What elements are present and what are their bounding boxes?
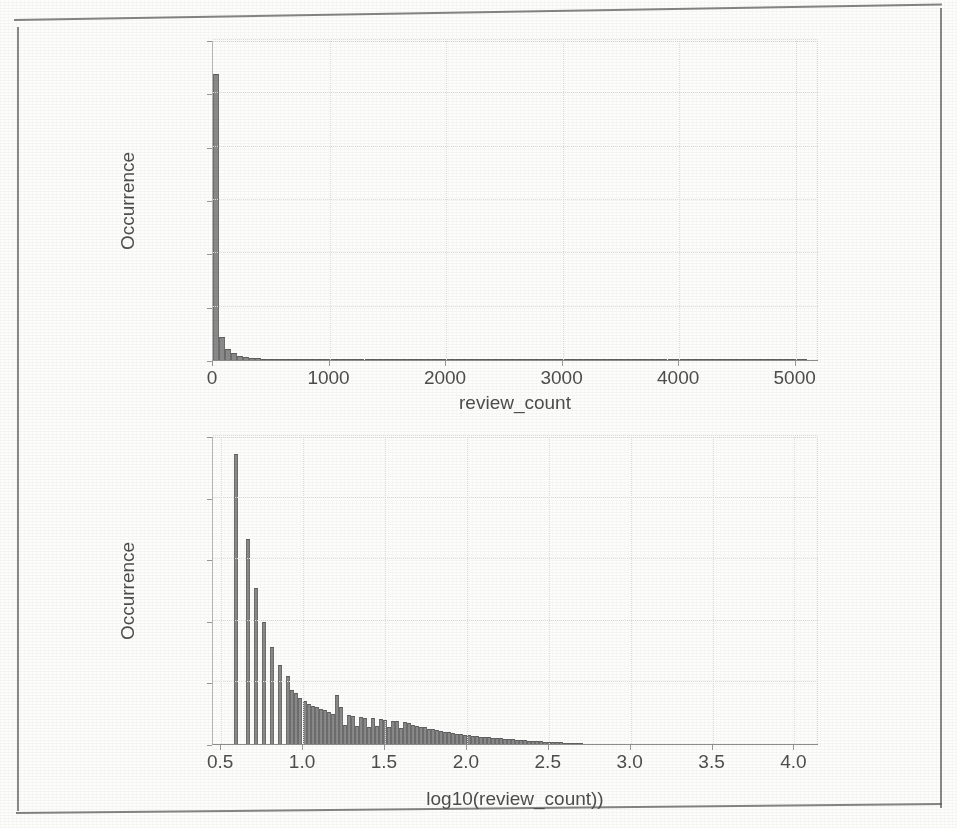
x-axis-tick-label: 3.5 [698,751,724,773]
histogram-bars-top [213,41,818,360]
y-axis-tick-mark [207,683,212,684]
x-axis-tick-mark [384,745,385,750]
y-axis-tick-mark [207,499,212,500]
histogram-bar [801,359,807,360]
x-axis-tick-mark [466,745,467,750]
x-axis-tick-mark [329,361,330,366]
x-axis-label-top: review_count [212,392,818,414]
x-axis-tick-label: 0.5 [207,751,233,773]
x-axis-tick-label: 4000 [657,367,699,389]
y-axis-tick-mark [207,560,212,561]
histogram-bar [579,743,583,744]
gridline-vertical [303,437,304,744]
x-axis-tick-mark [212,361,213,366]
x-axis-tick-label: 3.0 [616,751,642,773]
histogram-bar [270,647,274,744]
histogram-bar [278,665,282,744]
x-axis-tick-mark [548,745,549,750]
x-axis-tick-mark [678,361,679,366]
x-axis-tick-label: 1.0 [289,751,315,773]
y-axis-label-bottom: Occurrence [117,531,139,651]
x-axis-tick-mark [302,745,303,750]
plot-area-top [212,41,818,361]
gridline-horizontal [213,146,818,147]
gridline-horizontal [213,252,818,253]
gridline-vertical [563,41,564,360]
x-axis-tick-label: 3000 [540,367,582,389]
x-axis-tick-label: 2.0 [453,751,479,773]
y-axis-tick-mark [207,745,212,746]
gridline-vertical [796,41,797,360]
y-axis-tick-mark [207,437,212,438]
x-axis-tick-label: 5000 [774,367,816,389]
gridline-vertical [330,41,331,360]
gridline-vertical [713,437,714,744]
gridline-vertical [446,41,447,360]
gridline-horizontal [213,306,818,307]
gridline-vertical [467,437,468,744]
gridline-vertical [385,437,386,744]
gridline-vertical [631,437,632,744]
figure: 0100002000030000400005000060000010002000… [0,0,957,828]
x-axis-tick-label: 4.0 [780,751,806,773]
x-axis-tick-label: 2.5 [535,751,561,773]
y-axis-tick-mark [207,308,212,309]
gridline-horizontal [213,39,818,40]
y-axis-tick-mark [207,94,212,95]
x-axis-label-bottom: log10(review_count)) [212,788,818,810]
x-axis-tick-mark [793,745,794,750]
gridline-horizontal [213,92,818,93]
x-axis-tick-mark [445,361,446,366]
x-axis-tick-label: 0 [207,367,218,389]
x-axis-tick-mark [562,361,563,366]
y-axis-tick-mark [207,622,212,623]
gridline-horizontal [213,199,818,200]
x-axis-tick-label: 1000 [307,367,349,389]
gridline-vertical [221,437,222,744]
histogram-bar [213,74,219,360]
x-axis-tick-mark [712,745,713,750]
y-axis-tick-mark [207,41,212,42]
histogram-bar [254,588,258,744]
y-axis-tick-mark [207,201,212,202]
x-axis-tick-mark [795,361,796,366]
gridline-vertical [679,41,680,360]
x-axis-tick-mark [220,745,221,750]
histogram-bar [246,539,250,744]
histogram-bar [234,454,238,744]
y-axis-label-top: Occurrence [117,141,139,261]
x-axis-tick-mark [630,745,631,750]
y-axis-tick-mark [207,148,212,149]
histogram-bar [262,622,266,744]
gridline-vertical [794,437,795,744]
gridline-horizontal [213,435,818,436]
gridline-vertical [549,437,550,744]
y-axis-tick-mark [207,254,212,255]
plot-area-bottom [212,437,818,745]
x-axis-tick-label: 1.5 [371,751,397,773]
x-axis-tick-label: 2000 [424,367,466,389]
